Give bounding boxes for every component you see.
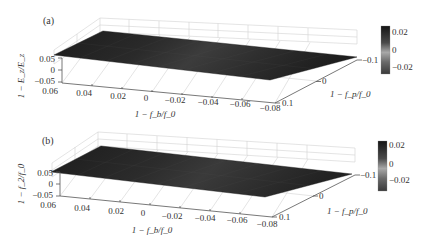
tick-label: 0.02	[389, 140, 405, 150]
z-axis-label-b: 1 − f_2/f_0	[16, 163, 26, 204]
tick-label: 0.06	[42, 86, 58, 96]
colorbar-b	[378, 141, 387, 191]
x-axis-label-b: 1 − f_b/f_0	[132, 225, 173, 235]
tick-label: −0.02	[162, 211, 183, 221]
tick-label: 0.05	[39, 54, 55, 64]
surface-plot-b: (b) 0.05 0 −0.05 1 − f_2/f_0 0.06 0.04 0…	[0, 126, 429, 252]
tick-label: −0.02	[165, 95, 186, 105]
grid-line	[100, 18, 357, 30]
panel-b: (b) 0.05 0 −0.05 1 − f_2/f_0 0.06 0.04 0…	[0, 126, 429, 252]
tick-label: −0.1	[360, 170, 376, 180]
tick-label: 0.1	[282, 98, 293, 108]
grid-line	[98, 132, 355, 148]
tick-label: 0	[389, 159, 394, 169]
tick-label: 0.02	[110, 91, 126, 101]
tick-label: 0.1	[279, 212, 290, 222]
surface-a	[54, 31, 357, 80]
tick-label: −0.05	[32, 190, 53, 200]
tick-label: 0.02	[108, 206, 124, 216]
panel-a: (a) 0.05 0 −0.05 1 − E_z/E_z 0.06 0.04 0…	[0, 0, 429, 126]
tick-label: −0.1	[362, 55, 378, 65]
tick-label: −0.05	[34, 76, 55, 86]
tick-label: −0.04	[195, 213, 216, 223]
x-axis-label-a: 1 − f_b/f_0	[135, 109, 176, 119]
tick-label: 0.04	[76, 88, 92, 98]
panel-label-a: (a)	[43, 15, 54, 27]
tick-label: −0.06	[227, 215, 248, 225]
tick-label: 0	[49, 179, 54, 189]
tick-label: −0.08	[260, 103, 281, 113]
z-axis-label-a: 1 − E_z/E_z	[16, 53, 26, 98]
tick-label: 0	[319, 191, 324, 201]
tick-label: 0	[51, 65, 56, 75]
colorbar-a	[381, 26, 390, 74]
tick-label: 0.06	[40, 200, 56, 210]
panel-label-b: (b)	[42, 135, 54, 147]
tick-label: 0	[141, 208, 146, 218]
tick-label: 0.02	[392, 27, 408, 37]
tick-label: 0.04	[74, 203, 90, 213]
surface-plot-a: (a) 0.05 0 −0.05 1 − E_z/E_z 0.06 0.04 0…	[0, 0, 429, 126]
tick-label: −0.02	[389, 175, 410, 185]
tick-label: −0.02	[392, 62, 413, 72]
tick-label: 0.05	[37, 168, 53, 178]
tick-label: −0.04	[198, 97, 219, 107]
y-axis-label-a: 1 − f_p/f_0	[330, 89, 371, 99]
tick-label: 0	[144, 93, 149, 103]
tick-label: 0	[322, 76, 327, 86]
tick-label: 0	[392, 45, 397, 55]
y-axis-label-b: 1 − f_p/f_0	[327, 206, 368, 216]
tick-label: −0.06	[230, 99, 251, 109]
tick-label: −0.08	[257, 219, 278, 229]
